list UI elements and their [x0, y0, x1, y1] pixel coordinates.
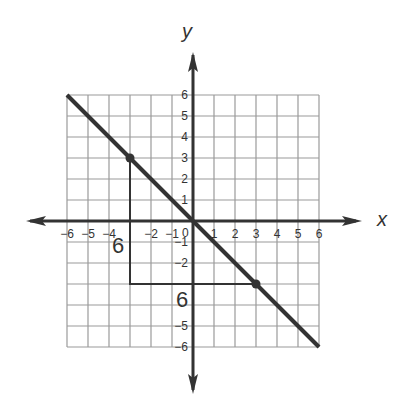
x-tick-label: −2 — [144, 227, 158, 241]
x-tick-label: 6 — [316, 227, 323, 241]
y-tick-label: 2 — [181, 172, 188, 186]
x-tick-labels: −6−5−4−2−1123456 — [60, 227, 323, 241]
x-tick-label: −5 — [81, 227, 95, 241]
x-tick-label: 5 — [295, 227, 302, 241]
coordinate-plane: −6−5−4−2−1123456 654321−1−2−5−6 0 x y 6 … — [0, 0, 402, 410]
x-tick-label: 2 — [232, 227, 239, 241]
x-tick-label: −6 — [60, 227, 74, 241]
y-tick-label: −6 — [174, 340, 188, 354]
x-tick-label: 3 — [253, 227, 260, 241]
x-tick-label: 4 — [274, 227, 281, 241]
point-3-neg3 — [252, 280, 261, 289]
y-tick-label: −2 — [174, 256, 188, 270]
x-axis-label: x — [376, 208, 388, 230]
y-tick-label: 6 — [181, 88, 188, 102]
point-neg3-3 — [126, 154, 135, 163]
vertical-leg-label: 6 — [112, 233, 124, 258]
x-tick-label: 1 — [211, 227, 218, 241]
y-tick-label: 4 — [181, 130, 188, 144]
y-tick-label: 5 — [181, 109, 188, 123]
y-axis-label: y — [180, 20, 193, 42]
horizontal-leg-label: 6 — [176, 287, 188, 312]
y-tick-label: 1 — [181, 193, 188, 207]
y-tick-label: 3 — [181, 151, 188, 165]
y-tick-label: −5 — [174, 319, 188, 333]
origin-label: 0 — [182, 226, 189, 240]
